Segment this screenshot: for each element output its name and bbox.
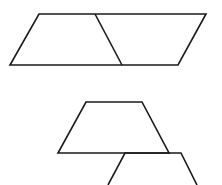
trapezoid: [58, 102, 169, 153]
diagram-canvas: [0, 0, 222, 185]
partial-trapezoid: [108, 153, 197, 185]
geometry-diagram: [0, 0, 222, 185]
parallelogram-divider: [95, 14, 122, 65]
